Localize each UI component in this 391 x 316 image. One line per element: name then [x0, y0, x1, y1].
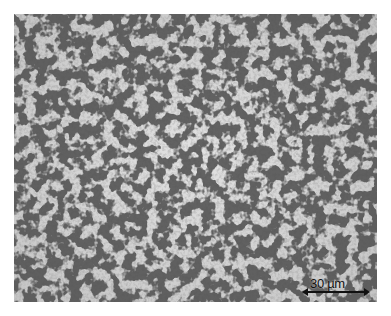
microstructure-texture: [14, 14, 377, 302]
scale-bar: 30 µm: [300, 276, 372, 298]
scale-bar-line: [304, 291, 368, 293]
scale-bar-label: 30 µm: [310, 276, 345, 291]
micrograph-image: [14, 14, 377, 302]
